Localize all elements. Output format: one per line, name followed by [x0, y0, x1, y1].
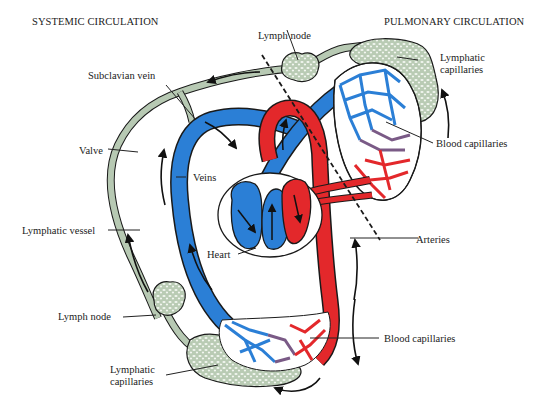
label-lymphatic-capillaries-bottom-1: Lymphatic — [110, 364, 155, 376]
label-veins: Veins — [193, 172, 216, 184]
label-lymphatic-capillaries-top-2: capillaries — [440, 64, 483, 76]
label-heart: Heart — [207, 249, 230, 261]
label-lymphatic-vessel: Lymphatic vessel — [22, 225, 95, 237]
lymph-node-bottom — [153, 282, 185, 316]
label-blood-capillaries-bottom: Blood capillaries — [384, 333, 455, 345]
lymph-node-top — [282, 53, 319, 82]
label-arteries: Arteries — [416, 234, 450, 246]
label-subclavian-vein: Subclavian vein — [88, 70, 155, 82]
label-lymphatic-capillaries-bottom-2: capillaries — [110, 376, 153, 388]
label-lymph-node-top: Lymph node — [258, 30, 311, 42]
blood-capillaries-systemic — [219, 312, 330, 371]
label-lymphatic-capillaries-top-1: Lymphatic — [440, 52, 485, 64]
label-blood-capillaries-top: Blood capillaries — [436, 138, 507, 150]
systemic-circulation-title: SYSTEMIC CIRCULATION — [32, 16, 159, 28]
pulmonary-circulation-title: PULMONARY CIRCULATION — [384, 16, 524, 28]
label-lymph-node-bottom: Lymph node — [58, 311, 111, 323]
heart — [218, 173, 322, 257]
label-valve: Valve — [79, 145, 103, 157]
